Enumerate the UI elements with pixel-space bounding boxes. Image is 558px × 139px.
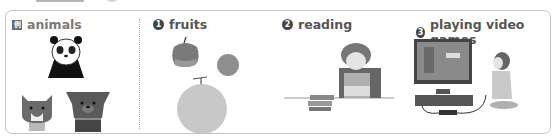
number-3-icon: 3	[416, 27, 425, 38]
item-label-reading: 2 reading	[282, 17, 352, 32]
vocabulary-box: 例 animals 1 fruits	[5, 10, 551, 134]
reading-illustration	[284, 43, 394, 113]
fruits-illustration	[171, 33, 251, 133]
example-text: animals	[27, 17, 82, 32]
video-games-illustration	[414, 39, 544, 119]
top-remnant-shape	[106, 0, 118, 2]
dog-illustration	[64, 90, 112, 132]
cat-illustration	[19, 91, 55, 131]
number-2-icon: 2	[282, 19, 293, 30]
section-divider	[139, 19, 140, 129]
example-label: 例 animals	[12, 17, 82, 32]
item-label-fruits: 1 fruits	[153, 17, 207, 32]
number-1-icon: 1	[153, 19, 164, 30]
panda-illustration	[46, 36, 86, 78]
top-remnant-line	[36, 0, 84, 2]
example-badge-icon: 例	[12, 20, 22, 30]
